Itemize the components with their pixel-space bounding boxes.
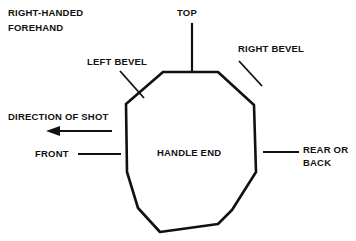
right-bevel-leader-line: [239, 61, 262, 86]
top-label: TOP: [177, 6, 197, 19]
handle-end-diagram: RIGHT-HANDED FOREHAND TOP LEFT BEVEL RIG…: [0, 0, 356, 241]
right-bevel-label: RIGHT BEVEL: [238, 42, 304, 55]
grip-type-label-line1: RIGHT-HANDED: [8, 6, 83, 19]
rear-or-back-label-line2: BACK: [303, 156, 331, 169]
handle-end-label: HANDLE END: [157, 146, 221, 159]
rear-or-back-label-line1: REAR OR: [303, 143, 348, 156]
grip-type-label-line2: FOREHAND: [8, 21, 63, 34]
left-bevel-label: LEFT BEVEL: [87, 55, 147, 68]
direction-of-shot-label: DIRECTION OF SHOT: [8, 110, 109, 123]
direction-of-shot-arrow-head: [46, 126, 60, 136]
left-bevel-leader-line: [120, 71, 144, 98]
front-label: FRONT: [35, 147, 69, 160]
